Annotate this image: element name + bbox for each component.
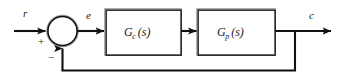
plant-block-label: Gp(s) [217, 26, 244, 38]
plant-subscript: p [225, 32, 229, 41]
controller-argument: (s) [138, 25, 151, 39]
block-diagram-canvas: r e c + − Gc(s) Gp(s) [0, 0, 341, 81]
block-diagram-svg [0, 0, 341, 81]
controller-block-label: Gc(s) [124, 26, 150, 38]
reference-input-label: r [23, 8, 27, 19]
output-signal-label: c [309, 10, 314, 21]
plant-argument: (s) [231, 25, 244, 39]
summing-junction-minus-sign: − [48, 51, 54, 63]
controller-subscript: c [132, 32, 136, 41]
summing-junction-plus-sign: + [38, 35, 44, 47]
summing-junction-circle [47, 16, 77, 46]
error-signal-label: e [86, 10, 91, 21]
